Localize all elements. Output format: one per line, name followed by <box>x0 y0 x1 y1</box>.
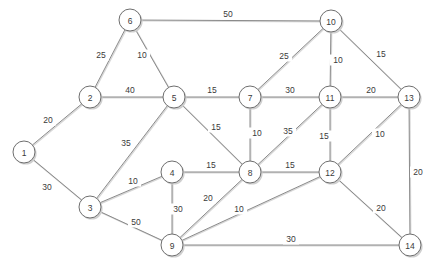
graph-edge <box>338 179 402 237</box>
edge-weight-halo <box>363 85 379 96</box>
edge-weight-halo <box>276 51 292 62</box>
node-circle[interactable] <box>399 234 421 256</box>
graph-node-6[interactable]: 6 <box>119 9 143 33</box>
edge-weight-halo <box>373 203 389 214</box>
graph-edge <box>32 104 81 145</box>
edge-weight-halo <box>208 122 224 133</box>
edge-weight-halo <box>203 160 219 171</box>
node-circle[interactable] <box>79 86 101 108</box>
edge-weight-halo <box>122 85 138 96</box>
node-circle[interactable] <box>119 9 141 31</box>
node-circle[interactable] <box>319 86 341 108</box>
graph-node-14[interactable]: 14 <box>399 234 423 258</box>
graph-node-2[interactable]: 2 <box>79 86 103 110</box>
node-circle[interactable] <box>320 10 342 32</box>
edge-weight-halo <box>220 9 236 20</box>
edge-weight-halo <box>40 115 56 126</box>
edge-weight-halo <box>231 204 247 215</box>
node-circle[interactable] <box>239 86 261 108</box>
graph-edge <box>32 159 81 200</box>
node-circle[interactable] <box>398 86 420 108</box>
edge-weight-halo <box>128 217 144 228</box>
edge-weight-halo <box>249 128 265 139</box>
node-circle[interactable] <box>163 86 185 108</box>
graph-edge <box>182 105 242 165</box>
graph-edge <box>339 29 401 90</box>
nodes-layer: 1234567891011121314 <box>13 9 423 258</box>
edge-shadow <box>183 177 321 241</box>
edge-weight-halo <box>134 50 150 61</box>
edge-weight-halo <box>282 160 298 171</box>
edge-weight-halo <box>410 167 426 178</box>
edge-weight-halo <box>373 49 389 60</box>
graph-edge <box>338 105 401 165</box>
graph-node-3[interactable]: 3 <box>79 196 103 220</box>
node-circle[interactable] <box>161 161 183 183</box>
node-circle[interactable] <box>13 141 35 163</box>
graph-edge <box>182 177 320 241</box>
node-circle[interactable] <box>161 234 183 256</box>
edge-weight-halo <box>282 85 298 96</box>
edge-weight-halo <box>280 126 296 137</box>
edge-weight-halo <box>118 138 134 149</box>
edge-weight-halo <box>330 55 346 66</box>
edge-weight-halo <box>372 129 388 140</box>
edge-weight-halo <box>204 85 220 96</box>
graph-diagram: 1234567891011121314 50251040203035105015… <box>0 0 431 266</box>
edge-weight-halo <box>316 131 332 142</box>
edge-weight-halo <box>283 234 299 245</box>
edge-weight-halo <box>93 50 109 61</box>
edge-shadow <box>339 105 402 165</box>
graph-svg-canvas: 1234567891011121314 50251040203035105015… <box>0 0 431 266</box>
node-circle[interactable] <box>79 196 101 218</box>
graph-node-4[interactable]: 4 <box>161 161 185 185</box>
edge-weight-halo <box>125 176 141 187</box>
node-circle[interactable] <box>319 161 341 183</box>
edge-weight-halo <box>200 193 216 204</box>
edge-weight-halo <box>170 204 186 215</box>
node-circle[interactable] <box>239 161 261 183</box>
edge-weight-halo <box>39 182 55 193</box>
